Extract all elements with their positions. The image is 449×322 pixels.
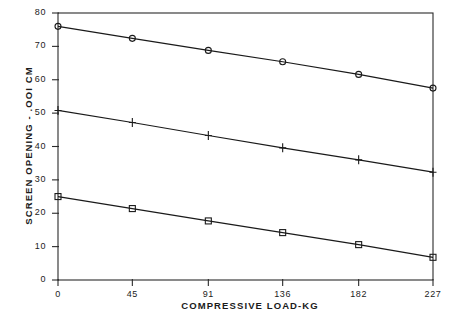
axes-group [58,13,433,280]
x-tick-label: 182 [339,289,379,299]
plot-area [0,0,449,322]
y-tick-label: 10 [20,241,46,251]
data-point-plus [430,168,437,177]
y-tick-label: 80 [20,7,46,17]
series-line [58,26,433,88]
data-point-plus [279,143,286,152]
data-point-plus [129,118,136,127]
x-tick-label: 0 [38,289,78,299]
y-tick-label: 0 [20,274,46,284]
data-point-plus [355,155,362,164]
y-tick-label: 40 [20,141,46,151]
y-tick-label: 60 [20,74,46,84]
y-tick-label: 70 [20,40,46,50]
x-tick-label: 91 [188,289,228,299]
chart-figure: SCREEN OPENING - .OOI CM COMPRESSIVE LOA… [0,0,449,322]
plot-frame [58,13,433,280]
series-middle-series [55,106,437,177]
x-tick-label: 45 [112,289,152,299]
y-tick-label: 30 [20,174,46,184]
x-tick-label: 227 [413,289,449,299]
series-group [55,23,437,260]
x-tick-label: 136 [263,289,303,299]
series-line [58,197,433,258]
y-tick-label: 50 [20,107,46,117]
data-point-plus [205,131,212,140]
series-line [58,110,433,172]
series-upper-series [55,23,436,91]
y-tick-label: 20 [20,207,46,217]
series-lower-series [55,194,436,261]
